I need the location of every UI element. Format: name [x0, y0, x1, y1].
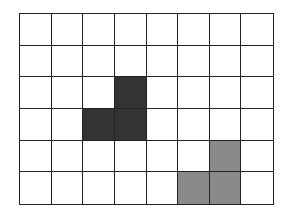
grid-cell: [20, 14, 52, 46]
grid-cell: [178, 46, 210, 78]
grid-cell: [241, 14, 273, 46]
grid-cell: [52, 141, 84, 173]
grid-cell: [52, 77, 84, 109]
grid-cell: [115, 46, 147, 78]
grid-cell: [241, 172, 273, 204]
grid-cell: [178, 141, 210, 173]
grid-cell: [52, 46, 84, 78]
dark-shape-cell: [115, 77, 147, 109]
gray-shape-cell: [210, 172, 242, 204]
grid-cell: [210, 14, 242, 46]
grid-cell: [147, 14, 179, 46]
grid-cell: [241, 46, 273, 78]
grid-cell: [210, 77, 242, 109]
grid-cell: [241, 141, 273, 173]
grid-cell: [147, 172, 179, 204]
grid-cell: [147, 46, 179, 78]
gray-shape-cell: [210, 141, 242, 173]
grid-cell: [83, 141, 115, 173]
grid-cell: [83, 77, 115, 109]
grid-cell: [83, 14, 115, 46]
grid-cell: [210, 109, 242, 141]
grid-cell: [178, 77, 210, 109]
grid-cell: [52, 109, 84, 141]
grid-cell: [115, 141, 147, 173]
grid-cell: [20, 141, 52, 173]
grid-cell: [20, 46, 52, 78]
grid-cell: [210, 46, 242, 78]
grid-cell: [241, 109, 273, 141]
grid-cell: [178, 14, 210, 46]
grid-cell: [83, 172, 115, 204]
grid-cell: [115, 172, 147, 204]
gray-shape-cell: [178, 172, 210, 204]
grid-cell: [115, 14, 147, 46]
grid-cell: [20, 109, 52, 141]
grid-cell: [147, 141, 179, 173]
dark-shape-cell: [115, 109, 147, 141]
grid-cell: [20, 77, 52, 109]
dark-shape-cell: [83, 109, 115, 141]
grid-cell: [52, 172, 84, 204]
grid-cell: [20, 172, 52, 204]
grid-cell: [83, 46, 115, 78]
grid-cell: [52, 14, 84, 46]
grid-cell: [241, 77, 273, 109]
grid-cell: [147, 109, 179, 141]
grid-diagram: [19, 13, 274, 205]
grid-cell: [147, 77, 179, 109]
grid-cell: [178, 109, 210, 141]
